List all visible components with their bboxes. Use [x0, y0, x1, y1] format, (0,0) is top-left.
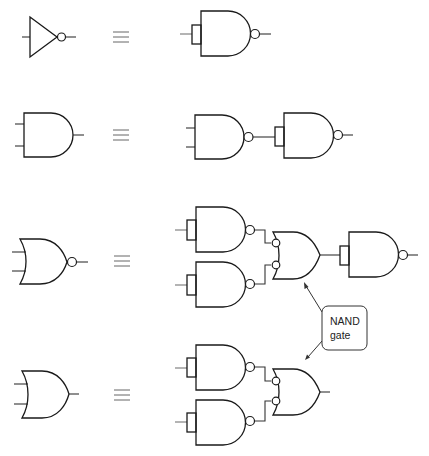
- nand-gate-icon: [175, 400, 271, 445]
- nand-gate-icon: [175, 345, 271, 390]
- and-gate-icon: [15, 113, 84, 157]
- nand-gate-icon: [175, 262, 271, 307]
- row-or: [14, 345, 330, 445]
- equivalence-sign: [113, 32, 129, 42]
- equivalence-sign: [114, 256, 130, 266]
- or-inverted-inputs-gate-icon: [272, 232, 340, 279]
- nand-gate-icon: [175, 207, 271, 252]
- row-nor: [12, 207, 418, 307]
- nand-gate-icon: [180, 11, 271, 56]
- row-and: [15, 113, 353, 159]
- or-gate-icon: [14, 371, 79, 418]
- nand-gate-callout: NAND gate: [304, 282, 367, 360]
- nor-gate-icon: [12, 239, 88, 284]
- nand-gate-icon: [275, 113, 353, 158]
- equivalence-sign: [113, 130, 129, 140]
- nand-gate-icon: [340, 232, 418, 277]
- row-not: [22, 11, 271, 57]
- nand-equivalence-diagram: NAND gate: [0, 0, 429, 456]
- or-inverted-inputs-gate-icon: [272, 369, 330, 415]
- nand-gate-icon: [186, 115, 275, 159]
- callout-box: [322, 306, 367, 350]
- callout-line-1: NAND: [330, 315, 360, 327]
- callout-line-2: gate: [330, 329, 351, 341]
- not-gate-icon: [22, 17, 76, 57]
- equivalence-sign: [114, 390, 130, 400]
